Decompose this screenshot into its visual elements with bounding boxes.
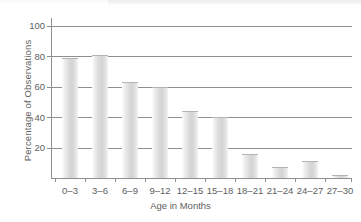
- y-axis-line: [51, 18, 52, 178]
- bar-12-15: [182, 111, 198, 178]
- bar-9-12: [152, 87, 168, 178]
- x-tick-label-15-18: 15–18: [207, 185, 233, 196]
- scan-artifact-left: [0, 0, 108, 3]
- y-tick-label-40: 40: [5, 112, 45, 123]
- x-tick-8: [295, 178, 296, 182]
- y-axis-title: Percentage of Observations: [22, 21, 33, 181]
- x-tick-label-3-6: 3–6: [92, 185, 108, 196]
- bar-3-6: [92, 55, 108, 178]
- x-tick-label-24-27: 24–27: [297, 185, 323, 196]
- bar-27-30: [332, 175, 348, 178]
- x-tick-label-27-30: 27–30: [327, 185, 353, 196]
- y-tick-20: [47, 148, 52, 149]
- x-tick-0: [55, 178, 56, 182]
- x-tick-5: [205, 178, 206, 182]
- x-tick-label-9-12: 9–12: [149, 185, 170, 196]
- x-tick-4: [175, 178, 176, 182]
- x-tick-9: [325, 178, 326, 182]
- plot-area: 100 80 60 40 20: [51, 18, 352, 178]
- bar-18-21: [242, 154, 258, 178]
- x-axis-title: Age in Months: [0, 200, 361, 211]
- bar-15-18: [212, 117, 228, 178]
- y-tick-60: [47, 87, 52, 88]
- y-tick-100: [47, 26, 52, 27]
- scan-artifact-band: [108, 0, 361, 5]
- bar-21-24: [272, 167, 288, 178]
- gridline-100: [51, 26, 352, 27]
- bar-0-3: [62, 58, 78, 178]
- y-tick-40: [47, 117, 52, 118]
- x-tick-10: [351, 178, 352, 182]
- bar-chart: Percentage of Observations 100 80 60 40 …: [0, 0, 361, 222]
- x-tick-label-6-9: 6–9: [122, 185, 138, 196]
- y-tick-label-80: 80: [5, 51, 45, 62]
- x-tick-label-21-24: 21–24: [267, 185, 293, 196]
- y-tick-label-20: 20: [5, 142, 45, 153]
- bar-6-9: [122, 82, 138, 178]
- x-tick-6: [235, 178, 236, 182]
- x-tick-label-0-3: 0–3: [62, 185, 78, 196]
- bar-24-27: [302, 161, 318, 178]
- x-axis-line: [51, 178, 352, 179]
- y-tick-label-100: 100: [5, 20, 45, 31]
- x-tick-2: [115, 178, 116, 182]
- x-tick-7: [265, 178, 266, 182]
- x-tick-label-12-15: 12–15: [177, 185, 203, 196]
- y-tick-label-60: 60: [5, 81, 45, 92]
- x-tick-3: [145, 178, 146, 182]
- y-tick-80: [47, 56, 52, 57]
- x-tick-1: [85, 178, 86, 182]
- x-tick-label-18-21: 18–21: [237, 185, 263, 196]
